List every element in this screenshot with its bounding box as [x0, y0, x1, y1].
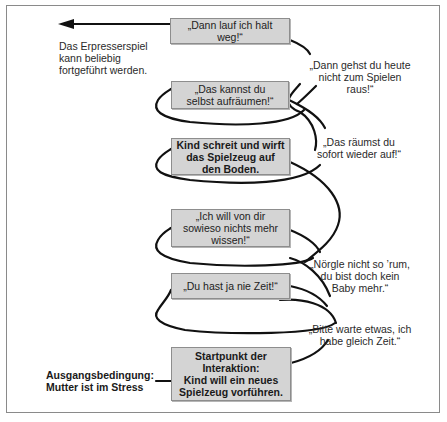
child-box-dont-want-to-know: „Ich will von dir sowieso nichts mehr wi… [171, 209, 290, 247]
start-condition-text: Ausgangsbedingung: Mutter ist im Stress [46, 369, 154, 393]
mother-reply-4-text: „Bitte warte etwas, ich habe gleich Zeit… [309, 323, 412, 347]
child-box-dont-want-text: „Ich will von dir sowieso nichts mehr wi… [183, 210, 278, 246]
child-box-screams-text: Kind schreit und wirft das Spielzeug auf… [177, 139, 285, 175]
exit-note: Das Erpresserspiel kann beliebig fortgef… [59, 40, 148, 76]
child-box-clean-up-yourself: „Das kannst du selbst aufräumen!“ [171, 81, 289, 109]
child-box-run-away: „Dann lauf ich halt weg!“ [170, 18, 290, 44]
mother-reply-no-playing-outside: „Dann gehst du heute nicht zum Spielen r… [300, 59, 420, 95]
child-box-screams-throws-toy: Kind schreit und wirft das Spielzeug auf… [171, 138, 290, 175]
mother-reply-please-wait: „Bitte warte etwas, ich habe gleich Zeit… [296, 323, 424, 347]
mother-reply-1-text: „Dann gehst du heute nicht zum Spielen r… [310, 59, 411, 95]
mother-reply-2-text: „Das räumst du sofort wieder auf!“ [317, 136, 401, 160]
mother-reply-clean-up-now: „Das räumst du sofort wieder auf!“ [304, 136, 414, 160]
child-box-never-time-text: „Du hast ja nie Zeit!“ [183, 280, 278, 292]
child-box-clean-up-text: „Das kannst du selbst aufräumen!“ [187, 83, 274, 107]
child-box-run-away-text: „Dann lauf ich halt weg!“ [188, 19, 273, 43]
mother-reply-stop-whining: „Nörgle nicht so ’rum, du bist doch kein… [300, 258, 420, 294]
start-condition-note: Ausgangsbedingung: Mutter ist im Stress [46, 369, 154, 393]
exit-note-text: Das Erpresserspiel kann beliebig fortgef… [59, 40, 148, 76]
exit-arrowhead [58, 19, 74, 29]
child-box-never-have-time: „Du hast ja nie Zeit!“ [171, 273, 290, 299]
start-point-box: Startpunkt der Interaktion: Kind will ei… [171, 347, 291, 401]
mother-reply-3-text: „Nörgle nicht so ’rum, du bist doch kein… [310, 258, 410, 294]
start-point-text: Startpunkt der Interaktion: Kind will ei… [179, 350, 283, 398]
